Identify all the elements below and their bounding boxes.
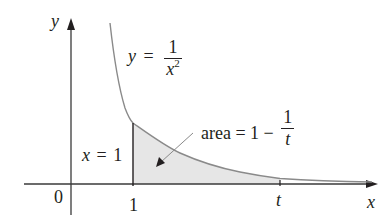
area-label-fraction: 1 t [281, 108, 294, 148]
x-axis-arrow-icon [366, 180, 378, 188]
y-axis-label: y [51, 12, 59, 30]
curve-eq-fraction: 1 x2 [164, 38, 182, 78]
tick-one-label: 1 [129, 196, 138, 214]
x-axis-label: x [367, 193, 375, 211]
line-label-eq: = [97, 145, 107, 165]
line-x-equals-1-label: x = 1 [82, 146, 122, 164]
area-label: area = 1 − 1 t [201, 122, 294, 148]
area-label-numerator: 1 [281, 108, 294, 126]
origin-label: 0 [54, 188, 63, 206]
line-label-var: x [82, 145, 90, 165]
curve-equation-label: y = 1 x2 [128, 38, 182, 78]
line-label-val: 1 [113, 145, 122, 165]
curve-eq-equals: = [144, 46, 154, 66]
area-label-prefix: area = 1 − [201, 123, 274, 143]
curve-eq-denominator: x2 [164, 60, 182, 78]
tick-t-label: t [276, 191, 281, 209]
area-label-denominator: t [283, 130, 292, 148]
y-axis-arrow-icon [67, 18, 75, 30]
curve-eq-lhs: y [128, 46, 136, 66]
improper-integral-figure: y x 0 1 t y = 1 x2 x = 1 area = 1 − 1 t [0, 0, 389, 223]
curve-eq-numerator: 1 [166, 38, 179, 56]
